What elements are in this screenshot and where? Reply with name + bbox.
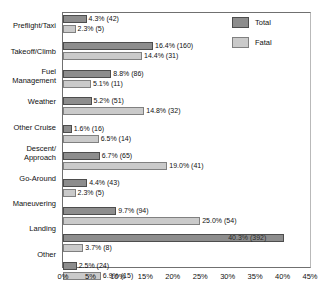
bar-line: 2.3% (5) xyxy=(63,189,310,197)
bar-value-label: 6.5% (14) xyxy=(101,133,131,144)
legend-label: Total xyxy=(255,18,271,27)
y-axis-category-labels: Preflight/TaxiTakeoff/ClimbFuelManagemen… xyxy=(0,13,59,267)
bar-total[interactable] xyxy=(63,125,72,133)
legend-label: Fatal xyxy=(255,38,272,47)
legend-item[interactable]: Total xyxy=(232,17,304,28)
bar-line: 5.2% (51) xyxy=(63,97,310,105)
bar-row: 1.6% (16)6.5% (14) xyxy=(63,125,310,150)
y-axis-label-line: Other xyxy=(37,250,56,259)
y-axis-label-line: Go-Around xyxy=(19,174,56,183)
bar-value-label: 25.0% (54) xyxy=(202,215,236,226)
bar-line: 6.7% (65) xyxy=(63,152,310,160)
bar-total[interactable] xyxy=(63,15,87,23)
bar-line: 3.7% (8) xyxy=(63,244,310,252)
bar-value-label: 2.3% (5) xyxy=(78,187,104,198)
bar-fatal[interactable] xyxy=(63,135,99,143)
bar-line: 19.0% (41) xyxy=(63,162,310,170)
y-axis-label-line: Preflight/Taxi xyxy=(13,21,56,30)
bar-total[interactable] xyxy=(63,179,87,187)
bar-line: 5.1% (11) xyxy=(63,80,310,88)
bar-value-label: 9.7% (94) xyxy=(118,205,148,216)
y-axis-label-line: Other Cruise xyxy=(13,123,56,132)
x-axis-tick-labels: 0%5%10%15%20%25%30%35%40%45% xyxy=(62,269,311,285)
bar-total[interactable] xyxy=(63,207,116,215)
y-axis-label: Preflight/Taxi xyxy=(0,13,59,38)
y-axis-label: Takeoff/Climb xyxy=(0,38,59,63)
y-axis-label: Landing xyxy=(0,216,59,241)
bar-chart: Preflight/TaxiTakeoff/ClimbFuelManagemen… xyxy=(0,0,322,295)
bar-total[interactable] xyxy=(63,42,153,50)
bar-value-label: 19.0% (41) xyxy=(169,160,203,171)
y-axis-label-line: Descent/ xyxy=(24,144,56,153)
bar-row: 4.4% (43)2.3% (5) xyxy=(63,179,310,204)
bar-value-label: 5.1% (11) xyxy=(93,78,123,89)
bar-fatal[interactable] xyxy=(63,244,83,252)
bar-fatal[interactable] xyxy=(63,52,142,60)
bar-line: 4.4% (43) xyxy=(63,179,310,187)
y-axis-label-line: Approach xyxy=(24,153,56,162)
bar-value-label: 3.7% (8) xyxy=(85,242,111,253)
legend-item[interactable]: Fatal xyxy=(232,37,304,48)
bar-row: 5.2% (51)14.8% (32) xyxy=(63,97,310,122)
bar-fatal[interactable] xyxy=(63,189,76,197)
y-axis-label-line: Management xyxy=(12,76,56,85)
bar-total[interactable] xyxy=(63,152,100,160)
y-axis-label: FuelManagement xyxy=(0,64,59,89)
y-axis-label-line: Weather xyxy=(28,97,56,106)
y-axis-label: Maneuvering xyxy=(0,191,59,216)
y-axis-label-line: Maneuvering xyxy=(13,199,56,208)
bar-value-label: 14.4% (31) xyxy=(144,50,178,61)
bar-fatal[interactable] xyxy=(63,217,200,225)
y-axis-label-line: Landing xyxy=(29,224,56,233)
legend-swatch-icon xyxy=(232,17,249,28)
bar-line: 8.8% (86) xyxy=(63,70,310,78)
bar-value-label: 6.7% (65) xyxy=(102,150,132,161)
y-axis-label: Descent/Approach xyxy=(0,140,59,165)
bar-row: 40.3% (392)3.7% (8) xyxy=(63,234,310,259)
y-axis-label: Weather xyxy=(0,89,59,114)
bar-value-label: 14.8% (32) xyxy=(146,105,180,116)
bar-line: 9.7% (94) xyxy=(63,207,310,215)
bar-line: 40.3% (392) xyxy=(63,234,310,242)
bar-line: 1.6% (16) xyxy=(63,125,310,133)
bar-value-label: 2.3% (5) xyxy=(78,23,104,34)
bar-fatal[interactable] xyxy=(63,162,167,170)
bar-row: 6.7% (65)19.0% (41) xyxy=(63,152,310,177)
y-axis-label-line: Fuel xyxy=(12,67,56,76)
bar-row: 8.8% (86)5.1% (11) xyxy=(63,70,310,95)
bar-value-label: 40.3% (392) xyxy=(228,232,266,243)
x-axis-tick: 45% xyxy=(302,272,317,281)
y-axis-label: Other Cruise xyxy=(0,115,59,140)
bar-line: 14.8% (32) xyxy=(63,107,310,115)
bar-line: 6.5% (14) xyxy=(63,135,310,143)
bar-fatal[interactable] xyxy=(63,107,144,115)
x-axis-tick: 15% xyxy=(138,272,153,281)
y-axis-label: Go-Around xyxy=(0,165,59,190)
x-axis-tick: 40% xyxy=(275,272,290,281)
bar-value-label: 5.2% (51) xyxy=(94,95,124,106)
x-axis-tick: 0% xyxy=(58,272,69,281)
bar-total[interactable] xyxy=(63,97,92,105)
bar-fatal[interactable] xyxy=(63,80,91,88)
y-axis-label-line: Takeoff/Climb xyxy=(11,47,56,56)
x-axis-tick: 20% xyxy=(165,272,180,281)
bar-line: 25.0% (54) xyxy=(63,217,310,225)
y-axis-label: Other xyxy=(0,242,59,267)
x-axis-tick: 30% xyxy=(220,272,235,281)
x-axis-tick: 10% xyxy=(110,272,125,281)
chart-legend: TotalFatal xyxy=(232,17,304,57)
x-axis-tick: 25% xyxy=(193,272,208,281)
bar-value-label: 1.6% (16) xyxy=(74,123,104,134)
bar-row: 9.7% (94)25.0% (54) xyxy=(63,207,310,232)
legend-swatch-icon xyxy=(232,37,249,48)
x-axis-tick: 35% xyxy=(248,272,263,281)
bar-fatal[interactable] xyxy=(63,25,76,33)
bar-total[interactable] xyxy=(63,70,111,78)
x-axis-tick: 5% xyxy=(85,272,96,281)
